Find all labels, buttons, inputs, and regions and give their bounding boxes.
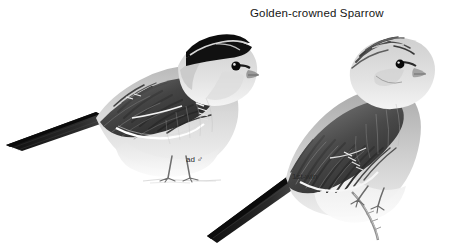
ground-line-adult	[143, 179, 221, 183]
eye-highlight-adult	[233, 63, 236, 66]
eye-adult	[231, 61, 240, 70]
label-adult-male: ad ♂	[186, 155, 203, 164]
label-first-winter: 1st-win	[292, 172, 317, 181]
plate-title: Golden-crowned Sparrow	[250, 7, 384, 19]
tail-first-winter	[207, 176, 298, 243]
eye-first-winter	[396, 60, 405, 69]
illustration-plate	[0, 0, 452, 249]
figure-adult-male	[6, 34, 259, 183]
eye-highlight-first-winter	[397, 61, 399, 63]
bill-adult	[246, 70, 259, 78]
